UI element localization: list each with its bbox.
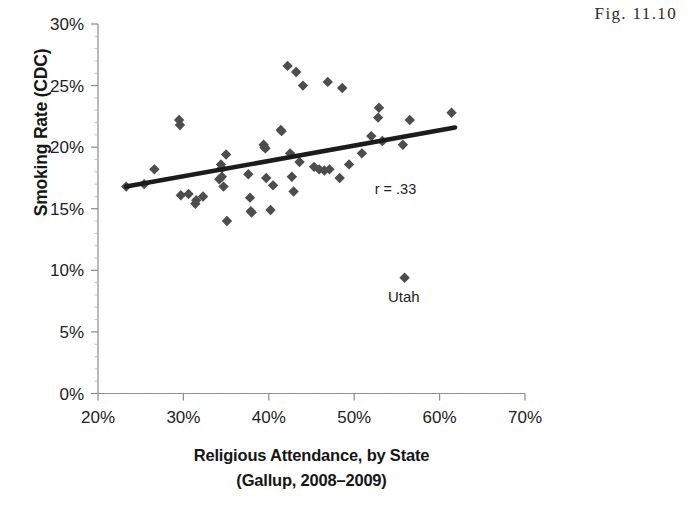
correlation: r = .33 [375, 181, 417, 197]
x-axis-tick-labels: 20%30%40%50%60%70% [81, 408, 542, 427]
utah-label: Utah [388, 288, 420, 305]
data-point [221, 149, 231, 159]
data-point [265, 205, 275, 215]
x-axis-title-line1: Religious Attendance, by State [98, 443, 525, 468]
data-point [222, 216, 232, 226]
x-tick-label-50: 50% [337, 408, 371, 427]
data-point [176, 190, 186, 200]
y-tick-label-25: 25% [50, 77, 84, 96]
x-axis-title: Religious Attendance, by State (Gallup, … [98, 443, 525, 493]
x-tick-label-40: 40% [252, 408, 286, 427]
data-point [357, 148, 367, 158]
data-point [334, 173, 344, 183]
x-tick-label-60: 60% [423, 408, 457, 427]
y-axis-tick-labels: 0%5%10%15%20%25%30% [50, 15, 84, 404]
data-point [288, 186, 298, 196]
data-point [398, 140, 408, 150]
x-tick-label-20: 20% [81, 408, 115, 427]
data-point [287, 172, 297, 182]
data-point [405, 115, 415, 125]
x-tick-label-70: 70% [508, 408, 542, 427]
data-point [243, 169, 253, 179]
data-point [323, 77, 333, 87]
data-point [261, 173, 271, 183]
y-tick-label-0: 0% [59, 385, 84, 404]
data-point [399, 273, 409, 283]
data-point [337, 83, 347, 93]
y-tick-label-10: 10% [50, 261, 84, 280]
x-axis-title-line2: (Gallup, 2008–2009) [98, 468, 525, 493]
data-point [268, 180, 278, 190]
y-tick-label-30: 30% [50, 15, 84, 34]
x-tick-label-30: 30% [166, 408, 200, 427]
data-point [149, 164, 159, 174]
data-point [245, 192, 255, 202]
plot-annotations: r = .33Utah [375, 181, 420, 305]
figure-root: Fig. 11.10 Smoking Rate (CDC) 0%5%10%15%… [0, 0, 691, 506]
data-point [344, 159, 354, 169]
data-point [298, 80, 308, 90]
data-point [291, 67, 301, 77]
scatter-plot: 0%5%10%15%20%25%30% 20%30%40%50%60%70% r… [0, 0, 691, 506]
y-tick-label-20: 20% [50, 138, 84, 157]
data-point [374, 103, 384, 113]
data-point [373, 112, 383, 122]
data-point [446, 107, 456, 117]
data-points [121, 61, 457, 283]
plot-axes [91, 24, 525, 401]
y-tick-label-5: 5% [59, 323, 84, 342]
data-point [183, 189, 193, 199]
data-point [282, 61, 292, 71]
y-tick-label-15: 15% [50, 200, 84, 219]
